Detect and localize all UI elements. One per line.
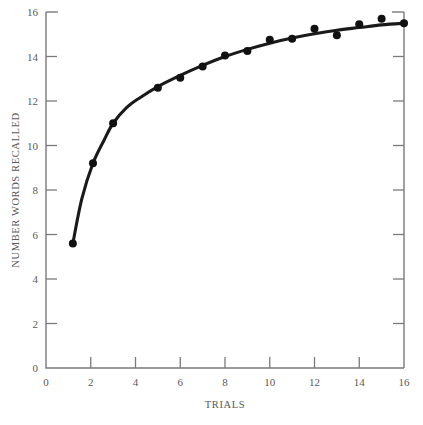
y-axis-tick-labels: 0246810121416: [27, 6, 39, 374]
y-axis-ticks-right: [393, 57, 404, 324]
x-tick-label-14: 14: [354, 376, 366, 388]
fitted-curve: [73, 23, 406, 243]
data-points: [69, 15, 408, 248]
data-point-trial-2: [89, 159, 97, 167]
y-tick-label-16: 16: [27, 6, 39, 18]
data-point-trial-6: [176, 74, 184, 82]
data-point-trial-14: [355, 20, 363, 28]
x-tick-label-4: 4: [133, 376, 139, 388]
axis-left-bottom: [46, 12, 404, 368]
y-axis-ticks: [46, 57, 57, 324]
data-point-trial-3: [109, 119, 117, 127]
y-axis-title: NUMBER WORDS RECALLED: [10, 112, 21, 267]
data-point-trial-16: [400, 19, 408, 27]
y-tick-label-12: 12: [27, 95, 38, 107]
x-axis-title: TRIALS: [205, 399, 245, 410]
chart-canvas: 0246810121416 0246810121416 TRIALS NUMBE…: [0, 0, 423, 425]
data-point-trial-9: [243, 47, 251, 55]
y-tick-label-2: 2: [33, 318, 39, 330]
x-tick-label-12: 12: [309, 376, 320, 388]
y-tick-label-4: 4: [33, 273, 39, 285]
x-tick-label-2: 2: [88, 376, 94, 388]
x-tick-label-0: 0: [43, 376, 49, 388]
data-point-trial-15: [378, 15, 386, 23]
data-point-trial-7: [199, 63, 207, 71]
y-tick-label-10: 10: [27, 140, 39, 152]
data-point-trial-12: [311, 25, 319, 33]
y-tick-label-8: 8: [33, 184, 39, 196]
x-tick-label-10: 10: [264, 376, 276, 388]
y-tick-label-0: 0: [33, 362, 39, 374]
data-point-trial-5: [154, 84, 162, 92]
x-tick-label-6: 6: [178, 376, 184, 388]
data-point-trial-1: [69, 239, 77, 247]
data-point-trial-10: [266, 36, 274, 44]
x-axis-tick-labels: 0246810121416: [43, 376, 410, 388]
data-point-trial-13: [333, 31, 341, 39]
chart-figure: 0246810121416 0246810121416 TRIALS NUMBE…: [0, 0, 423, 425]
x-axis-ticks: [91, 357, 360, 368]
x-tick-label-8: 8: [222, 376, 228, 388]
data-point-trial-11: [288, 35, 296, 43]
y-tick-label-14: 14: [27, 51, 39, 63]
data-point-trial-8: [221, 51, 229, 59]
y-tick-label-6: 6: [33, 229, 39, 241]
x-tick-label-16: 16: [399, 376, 411, 388]
